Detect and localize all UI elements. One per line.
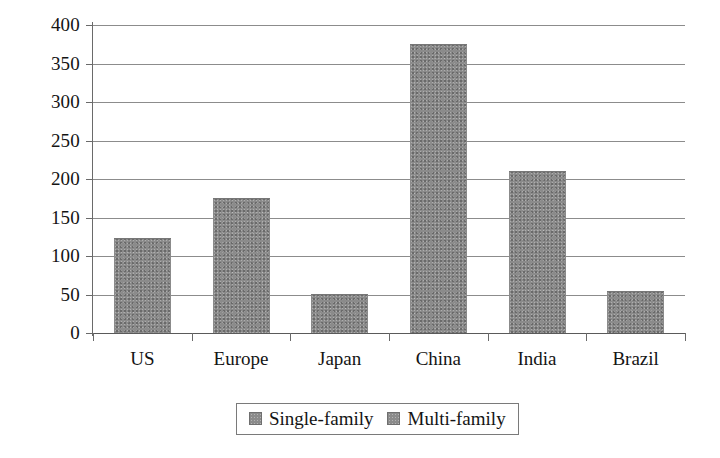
x-axis-tick-label: Japan	[290, 348, 389, 370]
gridline	[93, 179, 685, 180]
x-axis-tick-mark	[586, 333, 587, 341]
legend-entry-2[interactable]: Multi-family	[387, 408, 505, 429]
legend-label: Single-family	[269, 408, 373, 429]
bar-europe	[213, 198, 270, 333]
x-axis-tick-mark	[192, 333, 193, 341]
gridline	[93, 141, 685, 142]
y-axis-tick-label: 0	[70, 323, 80, 342]
y-axis-tick-mark	[86, 333, 93, 334]
y-axis-tick-label: 300	[51, 92, 80, 111]
y-axis-tick-label: 400	[51, 15, 80, 34]
gridline	[93, 218, 685, 219]
y-axis-tick-mark	[86, 64, 93, 65]
y-axis-tick-mark	[86, 179, 93, 180]
x-axis-tick-mark	[488, 333, 489, 341]
y-axis-tick-label: 150	[51, 208, 80, 227]
gridline	[93, 295, 685, 296]
legend-swatch-icon	[249, 412, 262, 425]
chart-legend: Single-familyMulti-family	[236, 403, 519, 435]
y-axis-tick-labels: 050100150200250300350400	[0, 25, 80, 333]
y-axis-tick-label: 200	[51, 169, 80, 188]
y-axis-tick-mark	[86, 25, 93, 26]
x-axis-tick-label: China	[389, 348, 488, 370]
x-axis-tick-label: India	[488, 348, 587, 370]
x-axis-tick-mark	[290, 333, 291, 341]
plot-area	[93, 25, 685, 333]
x-axis-tick-label: US	[93, 348, 192, 370]
y-axis-tick-label: 250	[51, 131, 80, 150]
gridline	[93, 256, 685, 257]
gridline	[93, 25, 685, 26]
gridline	[93, 64, 685, 65]
bar-china	[410, 44, 467, 333]
y-axis-tick-label: 350	[51, 54, 80, 73]
y-axis-tick-mark	[86, 256, 93, 257]
bar-india	[509, 171, 566, 333]
x-axis-tick-mark	[389, 333, 390, 341]
x-axis-tick-label: Europe	[192, 348, 291, 370]
y-axis-tick-mark	[86, 141, 93, 142]
y-axis-tick-mark	[86, 218, 93, 219]
x-axis-tick-mark	[685, 333, 686, 341]
bar-brazil	[607, 291, 664, 333]
bar-japan	[311, 294, 368, 333]
y-axis-tick-label: 100	[51, 246, 80, 265]
y-axis-tick-mark	[86, 102, 93, 103]
x-axis-tick-label: Brazil	[586, 348, 685, 370]
gridline	[93, 102, 685, 103]
y-axis-tick-mark	[86, 295, 93, 296]
y-axis-tick-label: 50	[61, 285, 80, 304]
x-axis-tick-mark	[93, 333, 94, 341]
legend-swatch-icon	[387, 412, 400, 425]
bar-us	[114, 238, 171, 333]
bar-chart-figure: 050100150200250300350400 USEuropeJapanCh…	[0, 0, 720, 458]
legend-label: Multi-family	[407, 408, 505, 429]
legend-entry-1[interactable]: Single-family	[249, 408, 373, 429]
